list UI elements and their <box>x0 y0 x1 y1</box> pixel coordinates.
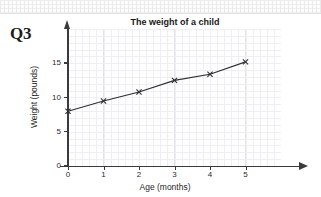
series-line <box>68 62 246 111</box>
data-series-layer <box>0 0 321 197</box>
line-chart: The weight of a child 0 1 2 3 4 5 0 5 10… <box>0 0 321 197</box>
data-point-marker <box>243 59 248 64</box>
worksheet-page: Q3 The weight of a child 0 1 2 3 4 5 0 5… <box>0 0 321 197</box>
